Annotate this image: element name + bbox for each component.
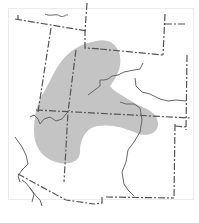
range-map bbox=[0, 0, 199, 223]
range-region bbox=[34, 40, 158, 163]
